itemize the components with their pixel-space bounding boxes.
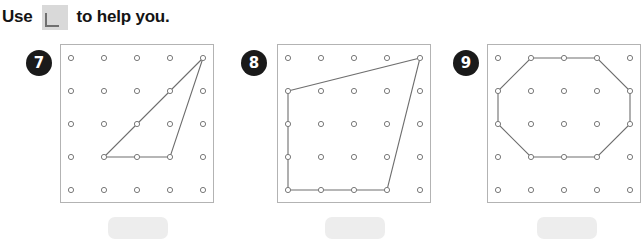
geoboard-svg-9 bbox=[488, 45, 639, 201]
geoboard-svg-7 bbox=[61, 45, 212, 201]
geoboard-svg-8 bbox=[278, 45, 429, 201]
band-shape-7 bbox=[104, 58, 203, 157]
problem-number-badge-8: 8 bbox=[241, 50, 267, 76]
problem-number-badge-9: 9 bbox=[453, 50, 479, 76]
geoboard-8[interactable] bbox=[277, 44, 431, 203]
answer-box-9[interactable] bbox=[537, 217, 597, 239]
heading-text-before: Use bbox=[2, 7, 33, 27]
geoboard-7[interactable] bbox=[60, 44, 214, 203]
square-corner-tool-icon bbox=[42, 5, 68, 30]
heading-text-after: to help you. bbox=[77, 7, 170, 27]
answer-box-7[interactable] bbox=[108, 217, 168, 239]
peg-grid-9 bbox=[495, 55, 632, 192]
peg-grid-8 bbox=[285, 55, 422, 192]
band-shape-9 bbox=[498, 58, 630, 157]
instruction-heading: Use to help you. bbox=[0, 2, 170, 32]
geoboard-9[interactable] bbox=[487, 44, 641, 203]
answer-box-8[interactable] bbox=[325, 217, 385, 239]
problem-number-badge-7: 7 bbox=[26, 50, 52, 76]
